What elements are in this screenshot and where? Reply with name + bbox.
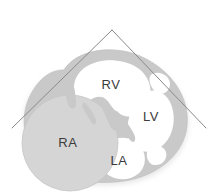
- heart-diagram-figure: RV LV RA LA: [0, 0, 219, 194]
- label-right-atrium: RA: [58, 135, 77, 150]
- label-left-ventricle: LV: [143, 109, 159, 124]
- heart-cross-section-svg: RV LV RA LA: [0, 0, 219, 194]
- label-left-atrium: LA: [110, 153, 127, 168]
- label-right-ventricle: RV: [101, 77, 120, 92]
